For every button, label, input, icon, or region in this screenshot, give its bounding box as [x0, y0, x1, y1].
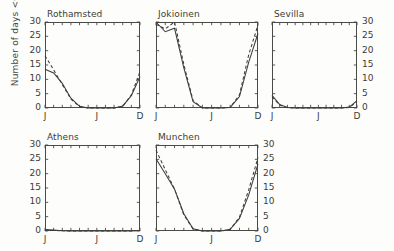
y-tick-label-athens-15: 15 [20, 182, 41, 192]
y-axis-title: Number of days <0°C [10, 0, 20, 95]
y-tick-label-rothamsted-15: 15 [20, 59, 41, 69]
series-rothamsted-modelled [45, 56, 140, 108]
x-tick-label-jokioinen-1: J [202, 111, 222, 121]
x-tick-label-sevilla-1: J [308, 111, 328, 121]
x-tick-label-sevilla-0: J [262, 111, 282, 121]
y-tick-label-sevilla-15: 15 [362, 59, 383, 69]
y-tick-label-sevilla-20: 20 [362, 45, 383, 55]
y-tick-label-rothamsted-25: 25 [20, 30, 41, 40]
series-munchen-modelled [156, 150, 258, 231]
y-tick-label-athens-30: 30 [20, 139, 41, 149]
x-tick-label-rothamsted-0: J [35, 111, 55, 121]
y-tick-label-munchen-25: 25 [263, 153, 284, 163]
x-tick-label-athens-1: J [87, 234, 107, 244]
figure-panel-grid: Number of days <0°C Rothamsted0510152025… [0, 0, 394, 251]
series-jokioinen-modelled [156, 22, 258, 108]
y-tick-label-athens-10: 10 [20, 196, 41, 206]
y-tick-label-rothamsted-20: 20 [20, 45, 41, 55]
plot-area-athens [45, 145, 140, 231]
panel-title-athens: Athens [47, 132, 79, 142]
panel-title-rothamsted: Rothamsted [47, 9, 102, 19]
y-tick-label-sevilla-5: 5 [362, 88, 383, 98]
plot-area-munchen [156, 145, 258, 231]
plot-area-jokioinen [156, 22, 258, 108]
y-tick-label-munchen-15: 15 [263, 182, 284, 192]
y-tick-label-sevilla-30: 30 [362, 16, 383, 26]
y-tick-label-rothamsted-10: 10 [20, 73, 41, 83]
y-tick-label-athens-20: 20 [20, 168, 41, 178]
x-tick-label-munchen-0: J [146, 234, 166, 244]
panel-title-munchen: Munchen [158, 132, 200, 142]
y-tick-label-athens-25: 25 [20, 153, 41, 163]
series-munchen-observed [156, 159, 258, 231]
y-tick-label-munchen-20: 20 [263, 168, 284, 178]
y-tick-label-munchen-10: 10 [263, 196, 284, 206]
series-sevilla-observed [272, 95, 357, 108]
chart-panel-rothamsted: Rothamsted051015202530JJD [45, 22, 140, 108]
chart-panel-munchen: Munchen051015202530JJD [156, 145, 258, 231]
chart-panel-jokioinen: JokioinenJJD [156, 22, 258, 108]
x-tick-label-jokioinen-0: J [146, 111, 166, 121]
y-tick-label-rothamsted-5: 5 [20, 88, 41, 98]
x-tick-label-athens-0: J [35, 234, 55, 244]
x-tick-label-munchen-2: D [248, 234, 268, 244]
y-tick-label-munchen-30: 30 [263, 139, 284, 149]
y-tick-label-athens-5: 5 [20, 211, 41, 221]
plot-area-sevilla [272, 22, 357, 108]
series-rothamsted-observed [45, 69, 140, 108]
panel-title-sevilla: Sevilla [274, 9, 304, 19]
x-tick-label-munchen-1: J [202, 234, 222, 244]
plot-area-rothamsted [45, 22, 140, 108]
series-jokioinen-observed [156, 22, 258, 108]
panel-title-jokioinen: Jokioinen [158, 9, 200, 19]
chart-panel-athens: Athens051015202530JJD [45, 145, 140, 231]
x-tick-label-rothamsted-1: J [87, 111, 107, 121]
y-tick-label-sevilla-25: 25 [362, 30, 383, 40]
y-tick-label-munchen-5: 5 [263, 211, 284, 221]
x-tick-label-sevilla-2: D [347, 111, 367, 121]
chart-panel-sevilla: Sevilla051015202530JJD [272, 22, 357, 108]
y-tick-label-rothamsted-30: 30 [20, 16, 41, 26]
y-tick-label-sevilla-10: 10 [362, 73, 383, 83]
